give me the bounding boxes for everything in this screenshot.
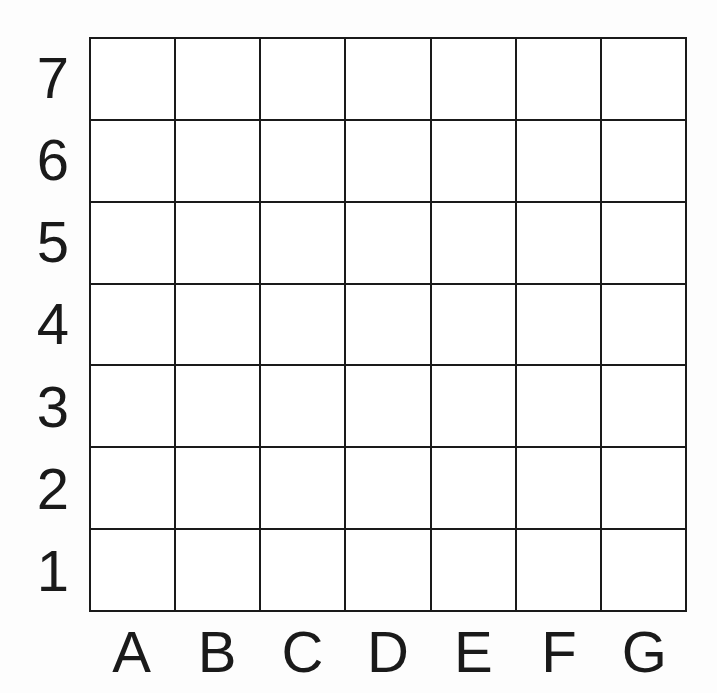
grid-cell-A6[interactable] <box>91 121 176 203</box>
row-axis-labels: 7 6 5 4 3 2 1 <box>0 37 83 612</box>
grid-cell-F5[interactable] <box>517 203 602 285</box>
grid-cell-G3[interactable] <box>602 366 687 448</box>
row-label-5: 5 <box>0 201 83 283</box>
grid-cell-F6[interactable] <box>517 121 602 203</box>
grid-cell-A3[interactable] <box>91 366 176 448</box>
row-label-1: 1 <box>0 530 83 612</box>
grid-cell-C2[interactable] <box>261 448 346 530</box>
grid-cell-A7[interactable] <box>91 39 176 121</box>
grid-cell-F4[interactable] <box>517 285 602 367</box>
grid-cell-D3[interactable] <box>346 366 431 448</box>
grid-cell-E1[interactable] <box>432 530 517 612</box>
grid-cell-E2[interactable] <box>432 448 517 530</box>
grid-cell-C1[interactable] <box>261 530 346 612</box>
column-axis-labels: A B C D E F G <box>89 615 687 685</box>
grid-cell-F7[interactable] <box>517 39 602 121</box>
grid-cell-B2[interactable] <box>176 448 261 530</box>
grid-cell-D5[interactable] <box>346 203 431 285</box>
grid-cell-G2[interactable] <box>602 448 687 530</box>
grid-cell-F2[interactable] <box>517 448 602 530</box>
grid-cell-E3[interactable] <box>432 366 517 448</box>
grid-cell-B4[interactable] <box>176 285 261 367</box>
grid-cell-A5[interactable] <box>91 203 176 285</box>
grid-cell-C5[interactable] <box>261 203 346 285</box>
grid-cell-E4[interactable] <box>432 285 517 367</box>
grid-cell-E6[interactable] <box>432 121 517 203</box>
column-label-E: E <box>431 615 516 685</box>
grid-cell-D4[interactable] <box>346 285 431 367</box>
grid-cell-B5[interactable] <box>176 203 261 285</box>
grid-board <box>89 37 687 612</box>
grid-cell-D7[interactable] <box>346 39 431 121</box>
column-label-D: D <box>345 615 430 685</box>
grid-cell-E5[interactable] <box>432 203 517 285</box>
column-label-G: G <box>602 615 687 685</box>
grid-cell-E7[interactable] <box>432 39 517 121</box>
row-label-2: 2 <box>0 448 83 530</box>
grid-cell-B7[interactable] <box>176 39 261 121</box>
grid-cell-A4[interactable] <box>91 285 176 367</box>
grid-cell-A2[interactable] <box>91 448 176 530</box>
row-label-4: 4 <box>0 283 83 365</box>
grid-cell-D1[interactable] <box>346 530 431 612</box>
grid-cell-C3[interactable] <box>261 366 346 448</box>
grid-cell-G5[interactable] <box>602 203 687 285</box>
grid-cell-D2[interactable] <box>346 448 431 530</box>
grid-cell-B1[interactable] <box>176 530 261 612</box>
grid-cell-F3[interactable] <box>517 366 602 448</box>
grid-cell-G1[interactable] <box>602 530 687 612</box>
grid-cell-G6[interactable] <box>602 121 687 203</box>
grid-cell-C4[interactable] <box>261 285 346 367</box>
grid-cell-C6[interactable] <box>261 121 346 203</box>
grid-cell-B3[interactable] <box>176 366 261 448</box>
grid-cell-F1[interactable] <box>517 530 602 612</box>
column-label-A: A <box>89 615 174 685</box>
grid-cell-A1[interactable] <box>91 530 176 612</box>
coordinate-grid-figure: 7 6 5 4 3 2 1 <box>0 0 717 693</box>
row-label-6: 6 <box>0 119 83 201</box>
grid-cell-G7[interactable] <box>602 39 687 121</box>
row-label-7: 7 <box>0 37 83 119</box>
grid-cell-C7[interactable] <box>261 39 346 121</box>
grid-cell-G4[interactable] <box>602 285 687 367</box>
column-label-B: B <box>174 615 259 685</box>
row-label-3: 3 <box>0 366 83 448</box>
grid-cell-B6[interactable] <box>176 121 261 203</box>
column-label-F: F <box>516 615 601 685</box>
grid-cell-D6[interactable] <box>346 121 431 203</box>
column-label-C: C <box>260 615 345 685</box>
